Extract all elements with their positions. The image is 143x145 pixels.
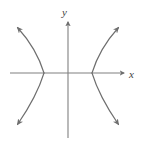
hyperbola-left-branch-lower-arm [18, 73, 45, 125]
graph-figure: y x [0, 0, 143, 145]
y-axis-label: y [62, 7, 67, 18]
hyperbola-right-branch-upper-arm [92, 28, 119, 74]
hyperbola-left-branch-upper-arm [18, 28, 45, 74]
x-axis-label: x [129, 69, 134, 80]
hyperbola-graph-canvas [0, 0, 143, 145]
hyperbola-right-branch-lower-arm [92, 73, 119, 125]
